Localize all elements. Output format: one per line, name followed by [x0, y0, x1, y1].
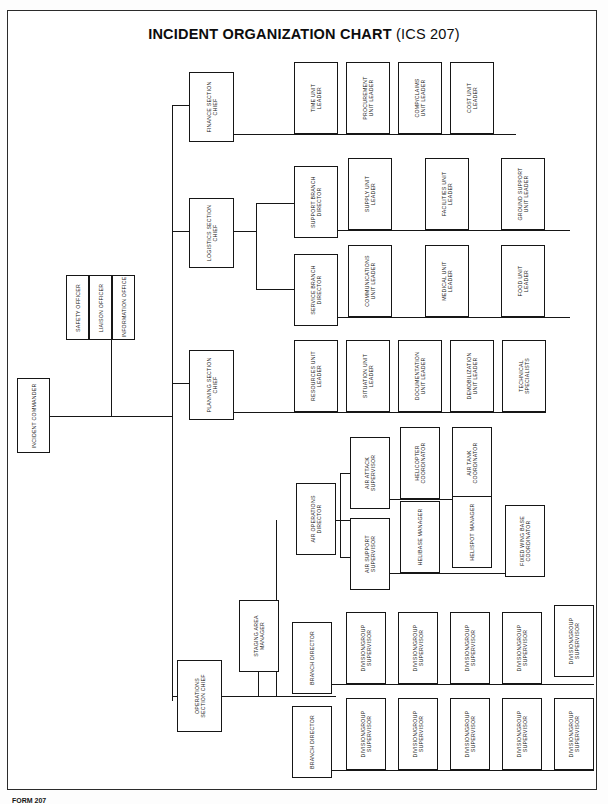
- org-box-helibase-manager[interactable]: HELIBASE MANAGER: [400, 501, 440, 573]
- connector-line: [172, 231, 189, 232]
- connector-line: [234, 412, 546, 413]
- org-box-label: OPERATIONS SECTION CHIEF: [193, 663, 206, 729]
- connector-line: [472, 134, 473, 135]
- org-box-logistics-section-chief[interactable]: LOGISTICS SECTION CHIEF: [189, 198, 234, 268]
- connector-line: [234, 134, 516, 135]
- org-box-label: SITUATION UNIT LEADER: [362, 343, 375, 409]
- form-page: INCIDENT ORGANIZATION CHART (ICS 207) IN…: [0, 0, 608, 804]
- org-box-facilities-unit-leader[interactable]: FACILITIES UNIT LEADER: [425, 158, 469, 230]
- org-box-demobilization-unit-leader[interactable]: DEMOBILIZATION UNIT LEADER: [450, 340, 494, 412]
- org-box-division-group-supervisor-2-3[interactable]: DIVISION/GROUP SUPERVISOR: [450, 698, 490, 770]
- org-box-label: SUPPORT BRANCH DIRECTOR: [310, 169, 323, 235]
- org-box-staging-area-manager[interactable]: STAGING AREA MANAGER: [239, 600, 279, 672]
- org-box-label: DIVISION/GROUP SUPERVISOR: [412, 701, 425, 767]
- connector-line: [332, 770, 594, 771]
- org-box-division-group-supervisor-1-3[interactable]: DIVISION/GROUP SUPERVISOR: [450, 612, 490, 684]
- org-box-label: DIVISION/GROUP SUPERVISOR: [516, 701, 529, 767]
- connector-line: [368, 134, 369, 135]
- org-box-label: LOGISTICS SECTION CHIEF: [205, 201, 218, 265]
- org-box-division-group-supervisor-2-4[interactable]: DIVISION/GROUP SUPERVISOR: [502, 698, 542, 770]
- org-box-label: HELICOPTER COORDINATOR: [414, 430, 427, 496]
- org-box-division-group-supervisor-2-5[interactable]: DIVISION/GROUP SUPERVISOR: [554, 698, 594, 770]
- org-box-label: SERVICE BRANCH DIRECTOR: [310, 257, 323, 323]
- org-box-label: DIVISION/GROUP SUPERVISOR: [464, 701, 477, 767]
- org-box-food-unit-leader[interactable]: FOOD UNIT LEADER: [501, 245, 545, 317]
- org-box-division-group-supervisor-2-1[interactable]: DIVISION/GROUP SUPERVISOR: [346, 698, 386, 770]
- connector-line: [172, 105, 173, 701]
- connector-line: [258, 672, 259, 696]
- org-box-label: DIVISION/GROUP SUPERVISOR: [464, 615, 477, 681]
- org-box-division-group-supervisor-2-2[interactable]: DIVISION/GROUP SUPERVISOR: [398, 698, 438, 770]
- org-box-division-group-supervisor-1-4[interactable]: DIVISION/GROUP SUPERVISOR: [502, 612, 542, 684]
- org-box-label: AIR SUPPORT SUPERVISOR: [364, 521, 377, 587]
- org-box-operations-section-chief[interactable]: OPERATIONS SECTION CHIEF: [177, 660, 222, 732]
- org-box-helicopter-coordinator[interactable]: HELICOPTER COORDINATOR: [400, 427, 440, 499]
- org-box-air-attack-supervisor[interactable]: AIR ATTACK SUPERVISOR: [350, 437, 390, 509]
- org-box-fixed-wing-base-coordinator[interactable]: FIXED WING BASE COORDINATOR: [505, 505, 545, 577]
- org-box-label: LIAISON OFFICER: [97, 278, 103, 337]
- connector-line: [340, 473, 350, 474]
- org-box-label: FOOD UNIT LEADER: [517, 248, 530, 314]
- org-box-ground-support-unit-leader[interactable]: GROUND SUPPORT UNIT LEADER: [501, 158, 545, 230]
- org-box-helispot-manager[interactable]: HELISPOT MANAGER: [452, 496, 492, 568]
- org-box-label: DIVISION/GROUP SUPERVISOR: [360, 615, 373, 681]
- org-box-label: COMMUNICATIONS UNIT LEADER: [364, 248, 377, 314]
- connector-line: [340, 473, 341, 557]
- org-box-label: BRANCH DIRECTOR: [309, 625, 315, 691]
- org-box-branch-director-1[interactable]: BRANCH DIRECTOR: [292, 622, 332, 694]
- org-box-planning-section-chief[interactable]: PLANNING SECTION CHIEF: [189, 350, 234, 420]
- connector-line: [338, 317, 570, 318]
- org-box-procurement-unit-leader[interactable]: PROCUREMENT UNIT LEADER: [346, 62, 390, 134]
- connector-line: [338, 230, 570, 231]
- org-box-label: PROCUREMENT UNIT LEADER: [362, 65, 375, 131]
- org-box-label: SUPPLY UNIT LEADER: [364, 161, 377, 227]
- org-box-label: DIVISION/GROUP SUPERVISOR: [412, 615, 425, 681]
- org-box-information-officer[interactable]: INFORMATION OFFICER: [112, 275, 135, 340]
- connector-line: [258, 696, 336, 697]
- org-box-label: FINANCE SECTION CHIEF: [205, 75, 218, 139]
- org-box-division-group-supervisor-1-1[interactable]: DIVISION/GROUP SUPERVISOR: [346, 612, 386, 684]
- org-box-time-unit-leader[interactable]: TIME UNIT LEADER: [294, 62, 338, 134]
- org-box-liaison-officer[interactable]: LIAISON OFFICER: [89, 275, 112, 340]
- org-box-air-tank-coordinator[interactable]: AIR TANK COORDINATOR: [452, 427, 492, 499]
- org-box-label: DIVISION/GROUP SUPERVISOR: [516, 615, 529, 681]
- org-box-incident-commander[interactable]: INCIDENT COMMANDER: [17, 378, 50, 453]
- org-box-supply-unit-leader[interactable]: SUPPLY UNIT LEADER: [348, 158, 392, 230]
- org-box-label: HELIBASE MANAGER: [417, 504, 423, 570]
- org-box-finance-section-chief[interactable]: FINANCE SECTION CHIEF: [189, 72, 234, 142]
- org-box-division-group-supervisor-1-2[interactable]: DIVISION/GROUP SUPERVISOR: [398, 612, 438, 684]
- org-box-label: MEDICAL UNIT LEADER: [441, 248, 454, 314]
- org-box-branch-director-2[interactable]: BRANCH DIRECTOR: [292, 706, 332, 778]
- form-footer-label: FORM 207: [12, 797, 46, 804]
- org-box-safety-officer[interactable]: SAFETY OFFICER: [66, 275, 89, 340]
- org-box-label: DEMOBILIZATION UNIT LEADER: [466, 343, 479, 409]
- org-box-air-operations-director[interactable]: AIR OPERATIONS DIRECTOR: [296, 483, 336, 555]
- org-box-label: INFORMATION OFFICER: [120, 278, 126, 337]
- org-box-service-branch-director[interactable]: SERVICE BRANCH DIRECTOR: [294, 254, 338, 326]
- connector-line: [234, 231, 256, 232]
- connector-line: [222, 696, 258, 697]
- org-box-air-support-supervisor[interactable]: AIR SUPPORT SUPERVISOR: [350, 518, 390, 590]
- org-box-medical-unit-leader[interactable]: MEDICAL UNIT LEADER: [425, 245, 469, 317]
- org-box-support-branch-director[interactable]: SUPPORT BRANCH DIRECTOR: [294, 166, 338, 238]
- org-box-division-group-supervisor-1-5[interactable]: DIVISION/GROUP SUPERVISOR: [554, 605, 594, 677]
- connector-line: [332, 684, 594, 685]
- org-box-label: HELISPOT MANAGER: [469, 499, 475, 565]
- org-box-label: DIVISION/GROUP SUPERVISOR: [360, 701, 373, 767]
- org-box-label: GROUND SUPPORT UNIT LEADER: [517, 161, 530, 227]
- org-box-label: AIR OPERATIONS DIRECTOR: [310, 486, 323, 552]
- connector-line: [111, 340, 112, 416]
- org-box-label: TECHNICAL SPECIALISTS: [518, 343, 531, 409]
- org-box-documentation-unit-leader[interactable]: DOCUMENTATION UNIT LEADER: [398, 340, 442, 412]
- org-box-comp-claims-unit-leader[interactable]: COMP/CLAIMS UNIT LEADER: [398, 62, 442, 134]
- org-box-label: DIVISION/GROUP SUPERVISOR: [568, 701, 581, 767]
- connector-line: [336, 520, 350, 521]
- connector-line: [256, 203, 294, 204]
- org-box-communications-unit-leader[interactable]: COMMUNICATIONS UNIT LEADER: [348, 245, 392, 317]
- org-box-cost-unit-leader[interactable]: COST UNIT LEADER: [450, 62, 494, 134]
- form-footer: FORM 207: [12, 797, 46, 804]
- org-box-technical-specialists[interactable]: TECHNICAL SPECIALISTS: [502, 340, 546, 412]
- connector-line: [172, 383, 189, 384]
- org-box-resources-unit-leader[interactable]: RESOURCES UNIT LEADER: [294, 340, 338, 412]
- org-box-situation-unit-leader[interactable]: SITUATION UNIT LEADER: [346, 340, 390, 412]
